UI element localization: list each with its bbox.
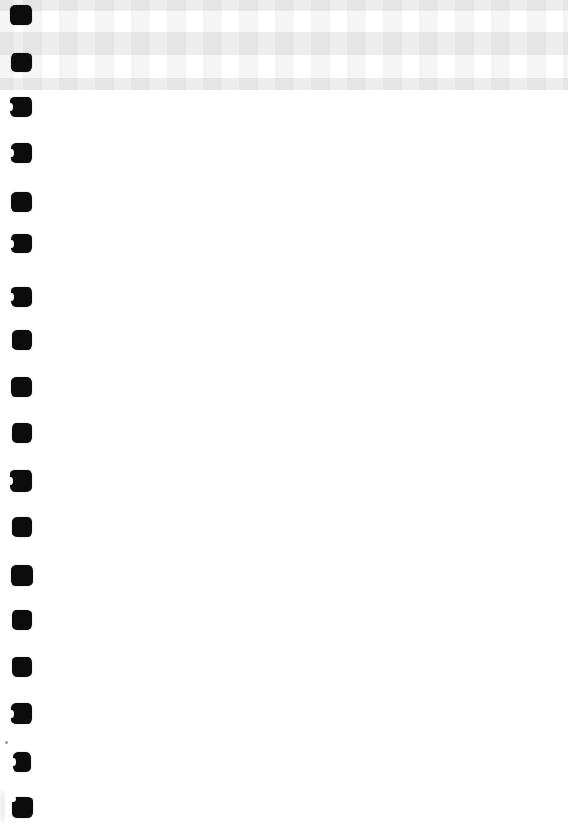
binding-hole xyxy=(12,330,32,350)
hole-notch xyxy=(8,477,13,485)
scan-speck xyxy=(5,741,8,744)
binding-hole xyxy=(11,53,32,72)
gingham-pattern-band xyxy=(0,0,568,90)
binding-hole xyxy=(10,470,32,492)
binding-hole xyxy=(13,752,31,772)
binding-hole xyxy=(11,703,32,724)
hole-notch xyxy=(8,103,13,111)
hole-notch xyxy=(9,293,14,301)
hole-notch xyxy=(9,710,14,718)
hole-notch xyxy=(9,149,14,157)
scan-smudge xyxy=(0,790,5,823)
binding-hole xyxy=(12,423,32,443)
binding-hole xyxy=(11,565,33,586)
binding-hole xyxy=(12,657,32,677)
binding-hole xyxy=(11,143,32,163)
binding-hole xyxy=(12,610,32,630)
scanned-page xyxy=(0,0,568,832)
binding-hole xyxy=(11,377,32,397)
binding-hole xyxy=(10,5,32,25)
binding-hole xyxy=(12,797,33,818)
binding-hole xyxy=(11,234,32,253)
binding-hole xyxy=(11,287,32,307)
hole-notch xyxy=(11,758,16,766)
binding-hole xyxy=(12,517,32,537)
binding-hole xyxy=(11,192,32,212)
hole-notch xyxy=(10,796,16,802)
hole-notch xyxy=(9,240,14,248)
binding-holes-column xyxy=(0,0,40,832)
binding-hole xyxy=(10,97,32,117)
